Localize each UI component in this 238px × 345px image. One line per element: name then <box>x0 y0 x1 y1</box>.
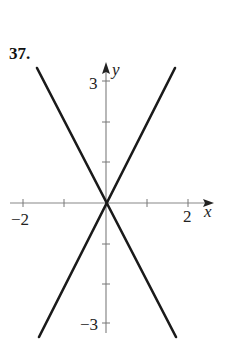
problem-number: 37. <box>9 44 30 63</box>
x-tick-label-min: −2 <box>11 210 29 229</box>
y-tick-label-max: 3 <box>89 74 98 93</box>
y-tick-label-min: −3 <box>80 315 98 334</box>
x-axis-label: x <box>203 202 212 221</box>
y-axis-label: y <box>110 60 120 79</box>
y-axis: 3 −3 y <box>80 60 120 334</box>
x-tick-label-max: 2 <box>183 207 192 226</box>
graph-figure: 37. −2 2 x 3 −3 y <box>0 0 238 345</box>
